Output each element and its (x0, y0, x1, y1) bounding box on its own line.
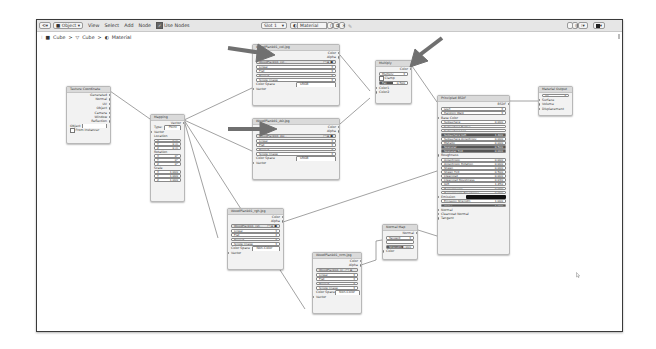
param-label: Anisotropic Rotation (444, 163, 473, 165)
menu-select[interactable]: Select (104, 23, 119, 28)
socket-tangent[interactable]: Tangent (438, 216, 509, 220)
param-label: Specular Tint (444, 150, 463, 152)
axis-value: 0° (175, 163, 178, 165)
socket-color-in[interactable]: Color (383, 249, 417, 253)
pin-icon[interactable]: ✎ (348, 23, 352, 29)
image-icons: ◯ ⧉ ■ (323, 135, 333, 137)
menu-view[interactable]: View (88, 23, 99, 28)
socket-label: Vector (256, 87, 266, 91)
material-name-field[interactable]: Material (297, 22, 327, 29)
image-icons: ◯ ⧉ ■ (267, 225, 277, 227)
socket-displacement[interactable]: Displacement (539, 107, 572, 111)
blend-type-dropdown[interactable]: Multiply▾ (379, 72, 408, 76)
space-dropdown[interactable]: Tangent Space▾ (386, 236, 414, 240)
uv-map-field[interactable] (386, 240, 414, 244)
emission-color-swatch[interactable] (466, 195, 506, 199)
projection-dropdown[interactable]: Flat▾ (316, 277, 358, 281)
param-subsurface-radius-field[interactable]: Subsurface Radius (441, 125, 506, 129)
param-value: 0.500 (495, 146, 503, 148)
display-mode-dropdown[interactable]: ▾ (593, 22, 605, 29)
target-dropdown[interactable]: All▾ (542, 94, 569, 98)
param-value: 0.500 (495, 171, 503, 173)
projection-dropdown[interactable]: Flat▾ (256, 143, 336, 147)
param-subsurface-field[interactable]: Subsurface0.000 (441, 120, 506, 124)
use-nodes-toggle[interactable]: ✓ Use Nodes (156, 22, 190, 29)
param-subsurface-col--field[interactable]: Subsurface Col... (441, 129, 506, 133)
node-principled-bsdf[interactable]: Principled BSDF BSDF GGX▾ Random Walk▾ B… (437, 95, 510, 255)
sidebar-toggle[interactable] (618, 34, 620, 39)
unlink-material-button[interactable]: × (339, 22, 345, 29)
chevron-down-icon: ▾ (276, 230, 277, 232)
menu-add[interactable]: Add (124, 23, 133, 28)
image-selector[interactable]: WoodPlank01_nr...◯ ⧉ ■ (316, 268, 358, 272)
socket-bsdf-out[interactable]: BSDF (438, 102, 509, 106)
param-subsurface-ior-field[interactable]: Subsurface IOR1.400 (441, 133, 506, 137)
param-emission-strength-field[interactable]: Emission Strength1.000 (441, 199, 506, 203)
extension-dropdown[interactable]: Repeat▾ (256, 74, 336, 78)
editor-type-button[interactable]: ⟲▾ (39, 22, 51, 29)
source-dropdown[interactable]: Single Image▾ (316, 286, 358, 290)
node-title[interactable]: Material Output (539, 87, 572, 93)
slot-dropdown[interactable]: Slot 1▾ (261, 22, 287, 29)
clamp-checkbox[interactable]: Clamp (376, 76, 411, 80)
socket-alpha-out[interactable]: Alpha (228, 219, 283, 223)
image-name: WoodPlank01_nr... (319, 269, 346, 271)
interpolation-dropdown[interactable]: Linear▾ (256, 65, 336, 69)
projection-dropdown[interactable]: Flat▾ (256, 69, 336, 73)
extension-dropdown[interactable]: Repeat▾ (316, 282, 358, 286)
subsurface-method-dropdown[interactable]: Random Walk▾ (441, 111, 506, 115)
socket-color2[interactable]: Color2 (376, 90, 411, 94)
image-selector[interactable]: WoodPlank01_col...◯ ⧉ ■ (256, 60, 336, 64)
param-label: Subsurface Radius (444, 126, 471, 128)
interpolation-dropdown[interactable]: Linear▾ (256, 139, 336, 143)
scale-label: Scale (151, 166, 184, 170)
node-image-texture-normal[interactable]: WoodPlank01_nrm.jpgColorAlphaWoodPlank01… (312, 252, 362, 314)
axis-value: 0° (175, 155, 178, 157)
view-options-dropdown[interactable]: ⁝▾ (578, 22, 588, 29)
param-transmission-field[interactable]: Transmission0.000 (441, 187, 506, 191)
socket-vector-in[interactable]: Vector (228, 251, 283, 255)
interpolation-dropdown[interactable]: Linear▾ (231, 229, 280, 233)
node-mapping[interactable]: Mapping Vector Type:Point Vector Locatio… (150, 114, 185, 202)
fac-slider[interactable]: Fac0.500 (379, 81, 408, 85)
node-texture-coordinate[interactable]: Texture Coordinate Generated Normal UV O… (66, 86, 111, 144)
distribution-dropdown[interactable]: GGX▾ (441, 107, 506, 111)
socket-alpha-out[interactable]: Alpha (253, 55, 339, 59)
source-dropdown[interactable]: Single Image▾ (256, 78, 336, 82)
source-dropdown[interactable]: Single Image▾ (256, 152, 336, 156)
object-icon: ■ (56, 23, 60, 28)
socket-alpha-out[interactable]: Alpha (253, 129, 339, 133)
socket-color-out[interactable]: Color (376, 67, 411, 71)
extension-dropdown[interactable]: Repeat▾ (231, 238, 280, 242)
node-mix-multiply[interactable]: Multiply Color Multiply▾ Clamp Fac0.500 … (375, 60, 412, 104)
chevron-down-icon: ▾ (332, 75, 333, 77)
chevron-down-icon: ▾ (332, 149, 333, 151)
node-material-output[interactable]: Material Output All▾ Surface Volume Disp… (538, 86, 573, 116)
socket-normal-out[interactable]: Normal (383, 231, 417, 235)
socket-vector-in[interactable]: Vector (253, 87, 339, 91)
param-value: 1.400 (495, 134, 503, 136)
extension-dropdown[interactable]: Repeat▾ (256, 148, 336, 152)
socket-vector-in[interactable]: Vector (313, 295, 361, 299)
from-instancer-checkbox[interactable]: From Instancer (67, 128, 110, 132)
menu-node[interactable]: Node (139, 23, 152, 28)
strength-slider[interactable]: Strength1.000 (386, 245, 414, 249)
source-dropdown[interactable]: Single Image▾ (231, 242, 280, 246)
node-image-texture-color[interactable]: WoodPlank01_col.jpgColorAlphaWoodPlank01… (252, 44, 340, 106)
socket-vector-in[interactable]: Vector (253, 161, 339, 165)
socket-alpha-out[interactable]: Alpha (313, 263, 361, 267)
scale-z-field[interactable]: Z1.000 (154, 178, 181, 182)
image-selector[interactable]: WoodPlank01_AO...◯ ⧉ ■ (256, 134, 336, 138)
interpolation-dropdown[interactable]: Linear▾ (316, 273, 358, 277)
axis-label: Y (157, 143, 159, 145)
socket-roughness[interactable]: Roughness (438, 153, 509, 157)
node-image-texture-roughness[interactable]: WoodPlank01_rgh.jpgColorAlphaWoodPlank01… (227, 208, 284, 270)
param-ior-field[interactable]: IOR1.450 (441, 182, 506, 186)
socket-label: Alpha (349, 263, 358, 267)
object-mode-dropdown[interactable]: ■ Object ▾ (53, 22, 83, 29)
node-image-texture-ao[interactable]: WoodPlank01_AO.jpgColorAlphaWoodPlank01_… (252, 118, 340, 180)
image-selector[interactable]: WoodPlank01_rgh...◯ ⧉ ■ (231, 224, 280, 228)
node-normal-map[interactable]: Normal Map Normal Tangent Space▾ Strengt… (382, 224, 418, 260)
close-icon: × (342, 23, 346, 28)
projection-dropdown[interactable]: Flat▾ (231, 233, 280, 237)
